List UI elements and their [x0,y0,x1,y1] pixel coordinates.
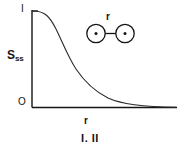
figure-caption: I. II [0,133,180,144]
inset-separation-label: r [106,12,110,22]
y-top-tick-label: I [21,4,24,14]
decay-curve-icon [33,11,176,107]
origin-label: O [18,97,26,107]
y-axis-label-subscript: ss [15,54,24,63]
inset-diagram [87,24,134,42]
figure-container: I Sss O r r I. II [0,0,180,157]
atom-center-dot-right [124,32,127,35]
x-axis-label: r [84,116,88,126]
y-axis-label-main: S [7,48,15,62]
y-axis-label: Sss [7,49,24,63]
atom-center-dot-left [95,32,98,35]
